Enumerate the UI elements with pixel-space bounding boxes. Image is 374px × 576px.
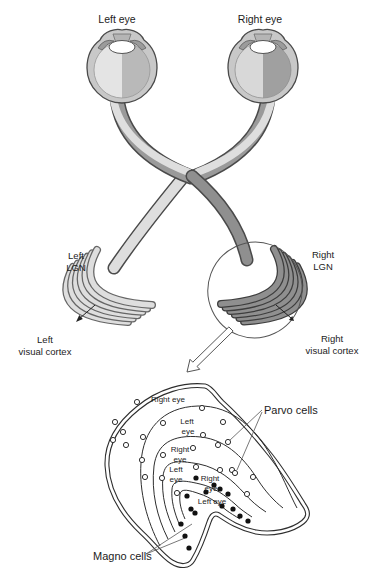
svg-text:Right: Right <box>201 474 220 483</box>
svg-text:Right: Right <box>312 249 335 260</box>
left-eye <box>87 29 157 103</box>
right-visual-cortex-label: Right visual cortex <box>306 333 359 356</box>
svg-text:Left: Left <box>169 465 183 474</box>
left-eye-label: Left eye <box>98 13 136 25</box>
right-eye <box>228 29 298 103</box>
right-lgn-label: Right LGN <box>312 249 335 272</box>
magno-cells-label: Magno cells <box>93 550 152 562</box>
lgn-cross-section: Right eye Left eye Right eye Left eye Ri… <box>93 386 318 566</box>
layer-5-label: Right eye <box>201 474 220 493</box>
visual-pathway-diagram: Right eye Left eye Right eye Left eye Ri… <box>0 0 374 576</box>
visual-pathway-figure: Right eye Left eye Right eye Left eye Ri… <box>0 0 374 576</box>
svg-text:visual cortex: visual cortex <box>19 346 72 357</box>
svg-text:eye: eye <box>182 427 195 436</box>
right-eye-lens <box>250 41 276 54</box>
right-lgn-layers <box>221 249 304 322</box>
right-optic-nerve <box>194 96 272 177</box>
parvo-cells-label: Parvo cells <box>264 404 318 416</box>
layer-4-label: Left eye <box>169 465 183 484</box>
magnify-arrow <box>187 327 233 372</box>
layer-2-label: Left eye <box>180 417 195 436</box>
svg-text:Right: Right <box>171 445 190 454</box>
svg-text:eye: eye <box>205 484 218 493</box>
svg-text:LGN: LGN <box>66 262 86 273</box>
svg-text:Left: Left <box>180 417 194 426</box>
svg-text:Right: Right <box>321 333 344 344</box>
svg-text:Left: Left <box>68 250 84 261</box>
left-visual-cortex-label: Left visual cortex <box>19 334 72 357</box>
layer-1-label: Right eye <box>151 395 185 404</box>
svg-text:visual cortex: visual cortex <box>306 345 359 356</box>
right-eye-label: Right eye <box>238 13 283 25</box>
left-lgn-label: Left LGN <box>66 250 86 273</box>
optic-tract-to-right-lgn <box>192 176 247 260</box>
svg-text:eye: eye <box>174 455 187 464</box>
optic-tract-to-left-lgn <box>114 174 186 268</box>
svg-text:Left: Left <box>37 334 53 345</box>
svg-text:LGN: LGN <box>313 261 333 272</box>
svg-text:eye: eye <box>170 475 183 484</box>
left-optic-nerve <box>113 96 191 177</box>
left-eye-lens <box>109 41 135 54</box>
layer-6-label: Left eye <box>198 497 227 506</box>
